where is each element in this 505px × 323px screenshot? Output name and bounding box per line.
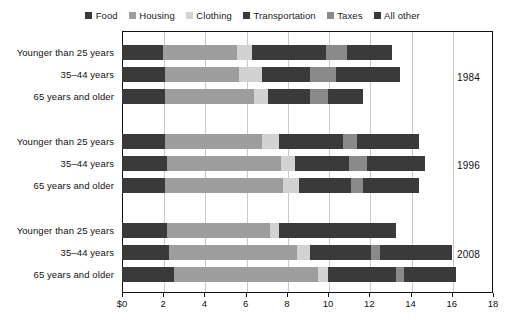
legend-entry: Housing [129,10,175,21]
legend-swatch-icon [129,12,136,19]
bar-segment-housing [165,134,262,149]
bar-segment-all-other [357,134,419,149]
bars-layer [122,31,493,293]
bar-row [122,245,452,260]
bar-segment-all-other [328,89,363,104]
bar-segment-all-other [363,178,419,193]
x-tick [411,293,412,297]
category-label: Younger than 25 years [0,47,114,58]
bar-segment-housing [165,89,254,104]
bar-segment-transportation [310,245,372,260]
category-label: 65 years and older [0,269,114,280]
bar-row [122,89,363,104]
bar-row [122,156,425,171]
bar-segment-clothing [283,178,299,193]
bar-segment-all-other [367,156,425,171]
bar-segment-food [122,45,163,60]
category-label: 35–44 years [0,247,114,258]
x-tick-label: 12 [364,298,375,309]
bar-segment-food [122,178,165,193]
bar-segment-transportation [279,223,333,238]
legend-swatch-icon [186,12,193,19]
bar-segment-taxes [371,245,379,260]
bar-row [122,223,396,238]
bar-segment-clothing [297,245,309,260]
x-tick-label: 14 [405,298,416,309]
bar-segment-all-other [380,245,452,260]
x-tick [163,293,164,297]
x-tick-label: 4 [202,298,207,309]
category-label: 35–44 years [0,158,114,169]
bar-segment-food [122,223,167,238]
x-tick [369,293,370,297]
year-annotation-2008: 2008 [457,249,480,260]
legend-entry: All other [374,10,420,21]
bar-segment-housing [165,67,239,82]
legend-label: All other [384,10,420,21]
bar-segment-clothing [239,67,262,82]
legend-label: Clothing [196,10,232,21]
bar-segment-all-other [332,223,396,238]
legend-swatch-icon [85,12,92,19]
x-axis: $024681012141618 [122,293,493,319]
bar-segment-food [122,134,165,149]
bar-segment-food [122,67,165,82]
bar-row [122,67,400,82]
x-tick [328,293,329,297]
bar-segment-clothing [281,156,295,171]
x-tick-label: 2 [161,298,166,309]
bar-segment-taxes [396,267,404,282]
x-tick [493,293,494,297]
legend-label: Taxes [337,10,362,21]
x-tick [287,293,288,297]
bar-segment-transportation [295,156,349,171]
bar-segment-housing [167,223,270,238]
bar-segment-clothing [270,223,278,238]
category-label: Younger than 25 years [0,136,114,147]
bar-segment-taxes [351,178,363,193]
bar-segment-housing [169,245,297,260]
bar-segment-transportation [299,178,351,193]
bar-segment-clothing [318,267,328,282]
legend-label: Housing [139,10,175,21]
bar-segment-taxes [310,89,329,104]
bar-segment-taxes [326,45,347,60]
legend-entry: Taxes [327,10,363,21]
bar-segment-food [122,245,169,260]
bar-segment-all-other [404,267,456,282]
bar-segment-transportation [268,89,309,104]
bar-segment-transportation [252,45,326,60]
bar-segment-clothing [262,134,278,149]
category-labels: Younger than 25 years35–44 years65 years… [0,31,118,293]
year-annotation-1984: 1984 [457,72,480,83]
category-label: Younger than 25 years [0,225,114,236]
bar-segment-clothing [254,89,268,104]
bar-segment-taxes [349,156,368,171]
category-label: 35–44 years [0,69,114,80]
chart-legend: FoodHousingClothingTransportationTaxesAl… [0,10,505,21]
bar-segment-food [122,267,174,282]
legend-entry: Clothing [186,10,232,21]
bar-row [122,178,419,193]
bar-segment-housing [167,156,280,171]
x-tick-label: 18 [488,298,499,309]
x-tick-label: 16 [446,298,457,309]
x-tick [246,293,247,297]
bar-segment-food [122,156,167,171]
x-tick-label: $0 [117,298,128,309]
bar-segment-clothing [237,45,251,60]
legend-swatch-icon [327,12,334,19]
year-annotation-1996: 1996 [457,160,480,171]
bar-segment-taxes [343,134,357,149]
stacked-bar-chart: FoodHousingClothingTransportationTaxesAl… [0,0,505,323]
bar-segment-all-other [347,45,392,60]
bar-segment-food [122,89,165,104]
category-label: 65 years and older [0,180,114,191]
x-tick [204,293,205,297]
legend-entry: Transportation [243,10,316,21]
x-tick [122,293,123,297]
legend-label: Transportation [253,10,315,21]
category-label: 65 years and older [0,91,114,102]
bar-segment-taxes [310,67,337,82]
bar-segment-housing [165,178,282,193]
